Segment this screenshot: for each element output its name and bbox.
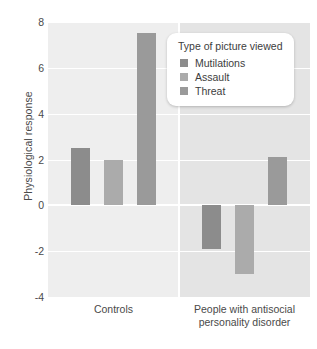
legend-item-mutilations: Mutilations [178,56,282,70]
bar-mutilations-group0 [71,148,90,205]
y-tick-label--2: -2 [18,246,44,257]
y-tick-label-8: 8 [18,17,44,28]
legend-swatch-icon-assault [180,73,188,81]
legend-item-assault: Assault [178,70,282,84]
legend-swatch-icon-threat [180,87,188,95]
legend: Type of picture viewed MutilationsAssaul… [167,33,294,106]
y-tick-label-2: 2 [18,155,44,166]
legend-label-assault: Assault [195,71,229,83]
legend-items: MutilationsAssaultThreat [178,56,282,98]
bar-assault-group1 [235,205,254,274]
legend-label-mutilations: Mutilations [195,57,245,69]
legend-title: Type of picture viewed [178,40,282,52]
legend-label-threat: Threat [195,85,225,97]
bar-threat-group0 [137,33,156,205]
bar-mutilations-group1 [202,205,221,249]
x-axis-label-antisocial: People with antisocial personality disor… [179,303,310,328]
legend-item-threat: Threat [178,84,282,98]
y-tick-label-0: 0 [18,200,44,211]
y-tick-label-4: 4 [18,109,44,120]
y-axis-tick-labels: 86420-2-4 [14,0,44,349]
x-axis-label-antisocial-line1: People with antisocial [179,303,310,316]
chart-figure: Physiological response 86420-2-4 Type of… [0,0,317,349]
legend-swatch-icon-mutilations [180,59,188,67]
y-tick-label--4: -4 [18,292,44,303]
y-tick-label-6: 6 [18,63,44,74]
x-axis-label-controls-line1: Controls [48,303,179,316]
x-axis-label-controls: Controls [48,303,179,316]
bar-assault-group0 [104,160,123,206]
bar-threat-group1 [268,157,287,205]
x-axis-label-antisocial-line2: personality disorder [179,316,310,329]
